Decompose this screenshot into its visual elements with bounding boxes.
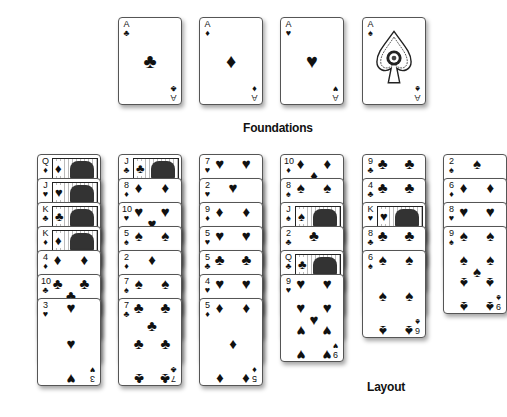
suit-icon: ♥ (67, 300, 76, 315)
suit-icon: ♥ (459, 204, 468, 219)
suit-icon: ♠ (473, 156, 481, 171)
suit-icon: ♥ (215, 228, 224, 243)
foundations-label: Foundations (243, 121, 313, 135)
suit-icon: ♣ (241, 252, 251, 267)
playing-card[interactable]: 6♠6♠♠♠♠♠♠♠ (362, 250, 426, 338)
card-corner-index: 10♥ (122, 205, 131, 223)
suit-icon: ♦ (122, 262, 131, 271)
card-corner-index: A♠ (366, 20, 375, 38)
playing-card[interactable]: A♠A♠ (362, 17, 426, 105)
card-corner-index: 10♣ (41, 277, 50, 295)
card-corner-index: 4♥ (203, 277, 212, 295)
face-figure (70, 185, 94, 203)
card-corner-index: Q♣ (284, 253, 293, 271)
suit-icon: ♦ (148, 252, 156, 267)
suit-icon: ♣ (143, 50, 156, 73)
suit-icon: ♣ (378, 180, 388, 195)
card-corner-index: 9♣ (366, 157, 375, 175)
suit-icon: ♦ (297, 156, 305, 171)
card-corner-index: J♥ (41, 181, 50, 199)
suit-icon: ♣ (160, 336, 170, 351)
suit-icon: ♥ (323, 300, 332, 315)
ornate-spade-icon (375, 29, 413, 87)
card-pips: ♣♣♣♣♣♣♣ (133, 303, 171, 383)
suit-icon: ♥ (242, 228, 251, 243)
suit-icon: ♥ (323, 324, 332, 339)
suit-icon: ♥ (161, 204, 170, 219)
suit-icon: ♠ (379, 252, 387, 267)
suit-icon: ♦ (242, 204, 250, 219)
card-corner-index: 3♥ (41, 301, 50, 319)
card-corner-index: 2♠ (447, 157, 456, 175)
suit-icon: ♦ (41, 166, 50, 175)
face-figure (395, 209, 419, 227)
suit-icon: ♦ (161, 180, 169, 195)
card-corner-index: 8♠ (284, 181, 293, 199)
suit-icon: ♣ (215, 252, 225, 267)
suit-icon: ♠ (297, 180, 305, 195)
suit-icon: ♠ (284, 190, 293, 199)
face-figure (70, 233, 94, 251)
suit-icon: ♣ (122, 29, 131, 38)
suit-icon: ♠ (486, 300, 494, 315)
card-corner-index: 9♦ (203, 205, 212, 223)
playing-card[interactable]: 9♥9♥♥♥♥♥♥♥♥♥♥ (280, 274, 344, 362)
playing-card[interactable]: A♦A♦♦ (199, 17, 263, 105)
suit-icon: ♣ (284, 262, 293, 271)
suit-icon: ♦ (216, 372, 224, 387)
card-corner-index: 5♥ (203, 229, 212, 247)
suit-icon: ♦ (41, 262, 50, 271)
suit-icon: ♠ (486, 252, 494, 267)
suit-icon: ♣ (160, 300, 170, 315)
face-figure (151, 161, 175, 179)
suit-icon: ♥ (203, 190, 212, 199)
card-corner-index: Q♦ (41, 157, 50, 175)
suit-icon: ♥ (122, 214, 131, 223)
playing-card[interactable]: A♥A♥♥ (280, 17, 344, 105)
suit-icon: ♠ (135, 276, 143, 291)
suit-icon: ♥ (41, 310, 50, 319)
card-corner-index: A♦ (203, 20, 212, 38)
suit-icon: ♣ (169, 84, 178, 93)
suit-icon: ♠ (460, 228, 468, 243)
face-figure (70, 209, 94, 227)
card-pips: ♥♥♥ (52, 303, 90, 383)
suit-icon: ♠ (298, 209, 305, 224)
card-corner-index: K♥ (366, 205, 375, 223)
card-corner-index: 7♠ (122, 277, 131, 295)
suit-icon: ♠ (486, 228, 494, 243)
suit-icon: ♠ (460, 276, 468, 291)
suit-icon: ♣ (404, 180, 414, 195)
playing-card[interactable]: A♣A♣♣ (118, 17, 182, 105)
suit-icon: ♣ (134, 336, 144, 351)
suit-icon: ♥ (67, 336, 76, 351)
playing-card[interactable]: 5♦5♦♦♦♦♦♦ (199, 298, 263, 386)
card-pips: ♠♠♠♠♠♠♠♠♠ (458, 231, 496, 311)
face-figure (313, 257, 337, 275)
card-rank: A (250, 93, 259, 102)
suit-icon: ♥ (331, 84, 340, 93)
suit-icon: ♥ (242, 276, 251, 291)
suit-icon: ♣ (134, 372, 144, 387)
suit-icon: ♠ (447, 166, 456, 175)
suit-icon: ♠ (473, 264, 481, 279)
suit-icon: ♣ (366, 238, 375, 247)
suit-icon: ♥ (284, 286, 293, 295)
playing-card[interactable]: 9♠9♠♠♠♠♠♠♠♠♠♠ (443, 226, 507, 314)
suit-icon: ♦ (250, 84, 259, 93)
suit-icon: ♣ (53, 276, 63, 291)
card-corner-index: 5♦ (203, 301, 212, 319)
suit-icon: ♥ (284, 29, 293, 38)
suit-icon: ♣ (284, 238, 293, 247)
suit-icon: ♣ (378, 156, 388, 171)
suit-icon: ♣ (309, 228, 319, 243)
suit-icon: ♣ (147, 318, 157, 333)
card-corner-index: 8♥ (447, 205, 456, 223)
suit-icon: ♦ (135, 180, 143, 195)
suit-icon: ♣ (160, 372, 170, 387)
playing-card[interactable]: 3♥3♥♥♥♥ (37, 298, 101, 386)
playing-card[interactable]: 7♣7♣♣♣♣♣♣♣♣ (118, 298, 182, 386)
suit-icon: ♥ (203, 238, 212, 247)
card-corner-index: 9♠ (447, 229, 456, 247)
suit-icon: ♥ (67, 372, 76, 387)
